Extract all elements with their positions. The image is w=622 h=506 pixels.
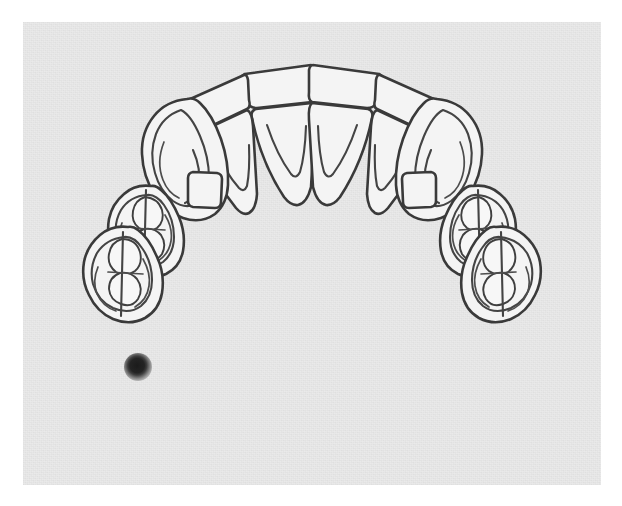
paper-sheet bbox=[23, 22, 601, 485]
arch-drawing bbox=[23, 22, 601, 485]
ink-dot-marker bbox=[124, 353, 152, 381]
dental-arch-illustration bbox=[0, 0, 622, 506]
